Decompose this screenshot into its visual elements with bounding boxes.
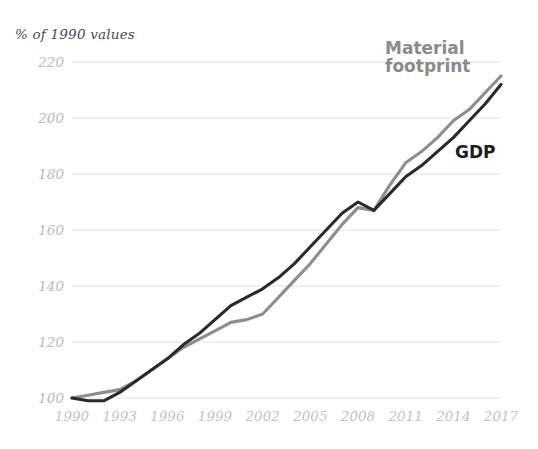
- x-axis-tick-label: 2008: [340, 408, 376, 424]
- x-axis-tick-labels: 1990199319961999200220052008201120142017: [55, 408, 519, 424]
- series-label-gdp: GDP: [455, 143, 496, 161]
- x-axis-tick-label: 2005: [292, 408, 327, 424]
- y-axis-tick-label: 120: [38, 334, 64, 350]
- x-axis-tick-label: 1990: [55, 408, 90, 424]
- y-axis-tick-label: 180: [38, 166, 64, 182]
- x-axis-tick-label: 1996: [150, 408, 185, 424]
- chart-container: % of 1990 values 100120140160180200220 1…: [0, 0, 538, 449]
- x-axis-tick-label: 2017: [483, 408, 519, 424]
- x-axis-tick-label: 1993: [102, 408, 136, 424]
- y-axis-tick-label: 220: [37, 54, 64, 70]
- gridlines-group: [72, 62, 501, 398]
- y-axis-tick-label: 100: [38, 390, 64, 406]
- x-axis-tick-label: 2002: [244, 408, 279, 424]
- y-axis-tick-label: 200: [37, 110, 64, 126]
- x-axis-tick-label: 2014: [435, 408, 470, 424]
- series-label-material-footprint: Material footprint: [385, 39, 471, 75]
- series-line-material-footprint: [72, 76, 501, 398]
- series-line-gdp: [72, 84, 501, 400]
- y-axis-tick-label: 140: [38, 278, 64, 294]
- y-axis-tick-labels: 100120140160180200220: [37, 54, 64, 406]
- x-axis-tick-label: 1999: [198, 408, 233, 424]
- x-axis-tick-label: 2011: [387, 408, 422, 424]
- series-group: [72, 76, 501, 401]
- y-axis-tick-label: 160: [38, 222, 64, 238]
